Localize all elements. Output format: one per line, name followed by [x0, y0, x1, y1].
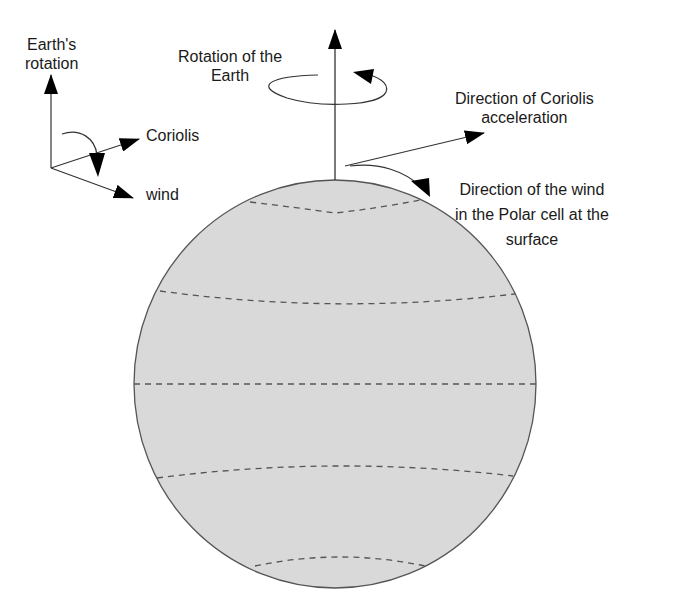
inset-wind-arrow	[51, 168, 133, 198]
inset-axis-label: Earth's rotation	[25, 35, 78, 73]
inset-axis-label-line2: rotation	[25, 54, 78, 73]
wind-direction-label-line1: Direction of the wind	[455, 180, 609, 199]
rotation-label-line2: Earth	[178, 66, 282, 85]
coriolis-direction-label-line2: acceleration	[455, 108, 594, 127]
coriolis-acceleration-arrow	[345, 133, 484, 166]
wind-direction-arrowhead-icon	[411, 178, 430, 197]
rotation-arrowhead-icon	[353, 69, 374, 84]
inset-axis-label-line1: Earth's	[25, 35, 78, 54]
wind-direction-label: Direction of the wind in the Polar cell …	[455, 180, 609, 249]
wind-direction-label-line2: in the Polar cell at the	[455, 205, 609, 224]
inset-coriolis-label: Coriolis	[146, 126, 199, 145]
rotation-label: Rotation of the Earth	[178, 47, 282, 85]
inset-wind-label: wind	[146, 185, 179, 204]
inset-curve	[62, 132, 97, 155]
coriolis-direction-label-line1: Direction of Coriolis	[455, 89, 594, 108]
coriolis-direction-label: Direction of Coriolis acceleration	[455, 89, 594, 127]
inset-axes	[51, 75, 139, 198]
inset-curve-arrowhead-icon	[89, 153, 105, 177]
rotation-label-line1: Rotation of the	[178, 47, 282, 66]
wind-direction-label-line3: surface	[455, 230, 609, 249]
